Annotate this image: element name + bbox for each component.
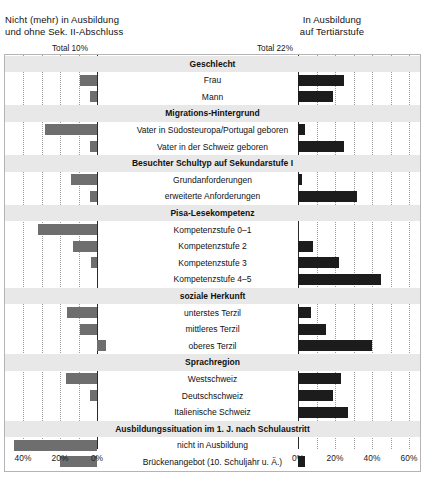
axis-tick-right-0: 0% <box>292 453 304 463</box>
section-header-label: Sprachregion <box>5 354 420 371</box>
data-row: Kompetenzstufe 0–1 <box>5 222 420 239</box>
section-header-label: Geschlecht <box>5 56 420 73</box>
data-row: Mann <box>5 89 420 106</box>
row-label: Kompetenzstufe 0–1 <box>5 222 420 239</box>
row-label: Westschweiz <box>5 371 420 388</box>
data-row: mittleres Terzil <box>5 321 420 338</box>
data-row: Kompetenzstufe 4–5 <box>5 271 420 288</box>
section-header-row: Pisa-Lesekompetenz <box>5 205 420 222</box>
axis-tick-left-0: 0% <box>91 453 103 463</box>
section-header-label: Migrations-Hintergrund <box>5 105 420 122</box>
row-label: erweiterte Anforderungen <box>5 188 420 205</box>
row-label: Kompetenzstufe 4–5 <box>5 271 420 288</box>
section-header-label: soziale Herkunft <box>5 288 420 305</box>
section-header-row: Geschlecht <box>5 56 420 73</box>
section-header-label: Pisa-Lesekompetenz <box>5 205 420 222</box>
row-label: Kompetenzstufe 3 <box>5 255 420 272</box>
axis-tick-right-20: 20% <box>327 453 344 463</box>
axis-tick-right-60: 60% <box>401 453 418 463</box>
panel-title-right: In Ausbildung auf Tertiärstufe <box>262 14 402 37</box>
plot-area: GeschlechtFrauMannMigrations-Hintergrund… <box>4 54 421 472</box>
data-row: Vater in Südosteuropa/Portugal geboren <box>5 122 420 139</box>
section-header-row: Sprachregion <box>5 354 420 371</box>
row-label: Kompetenzstufe 2 <box>5 238 420 255</box>
row-label: Frau <box>5 72 420 89</box>
data-row: Vater in der Schweiz geboren <box>5 139 420 156</box>
row-label: unterstes Terzil <box>5 305 420 322</box>
section-header-label: Besuchter Schultyp auf Sekundarstufe I <box>5 155 420 172</box>
data-row: Kompetenzstufe 2 <box>5 238 420 255</box>
axis-labels: 40%20%0%0%20%40%60% <box>5 449 420 471</box>
axis-tick-left-20: 20% <box>52 453 69 463</box>
section-header-row: Ausbildungssituation im 1. J. nach Schul… <box>5 421 420 438</box>
row-label: Mann <box>5 89 420 106</box>
data-row: erweiterte Anforderungen <box>5 188 420 205</box>
row-label: Deutschschweiz <box>5 388 420 405</box>
data-row: Deutschschweiz <box>5 388 420 405</box>
total-label-left: Total 10% <box>52 44 88 53</box>
data-row: Grundanforderungen <box>5 172 420 189</box>
row-label: Vater in Südosteuropa/Portugal geboren <box>5 122 420 139</box>
data-row: Italienische Schweiz <box>5 404 420 421</box>
chart-root: Nicht (mehr) in Ausbildung und ohne Sek.… <box>0 0 425 494</box>
axis-tick-left-40: 40% <box>15 453 32 463</box>
data-row: Westschweiz <box>5 371 420 388</box>
axis-tick-right-40: 40% <box>364 453 381 463</box>
data-row: oberes Terzil <box>5 338 420 355</box>
data-row: unterstes Terzil <box>5 305 420 322</box>
row-label: Grundanforderungen <box>5 172 420 189</box>
data-row: Kompetenzstufe 3 <box>5 255 420 272</box>
row-label: mittleres Terzil <box>5 321 420 338</box>
section-header-row: soziale Herkunft <box>5 288 420 305</box>
row-label: oberes Terzil <box>5 338 420 355</box>
data-row: Frau <box>5 72 420 89</box>
bar-rows: GeschlechtFrauMannMigrations-Hintergrund… <box>5 55 420 449</box>
section-header-row: Besuchter Schultyp auf Sekundarstufe I <box>5 155 420 172</box>
section-header-row: Migrations-Hintergrund <box>5 105 420 122</box>
row-label: Vater in der Schweiz geboren <box>5 139 420 156</box>
total-label-right: Total 22% <box>257 44 293 53</box>
row-label: Italienische Schweiz <box>5 404 420 421</box>
section-header-label: Ausbildungssituation im 1. J. nach Schul… <box>5 421 420 438</box>
panel-title-left: Nicht (mehr) in Ausbildung und ohne Sek.… <box>5 14 123 37</box>
